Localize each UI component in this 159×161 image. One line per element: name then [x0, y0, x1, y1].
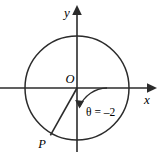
origin-label: O [65, 72, 74, 86]
point-p-label-wrap: P [35, 134, 49, 152]
angle-value-label: θ = –2 [86, 106, 115, 118]
y-axis-label-wrap: y [60, 3, 74, 21]
y-axis-label: y [64, 5, 70, 20]
origin-label-wrap: O [63, 69, 77, 87]
point-p-label: P [38, 137, 46, 151]
angle-label-wrap: θ = –2 [86, 102, 115, 120]
angle-diagram-figure: y x O P θ = –2 [0, 0, 159, 161]
terminal-ray-op [50, 88, 77, 135]
diagram-canvas [0, 0, 159, 161]
x-axis-label: x [144, 92, 150, 107]
x-axis-label-wrap: x [140, 90, 154, 108]
